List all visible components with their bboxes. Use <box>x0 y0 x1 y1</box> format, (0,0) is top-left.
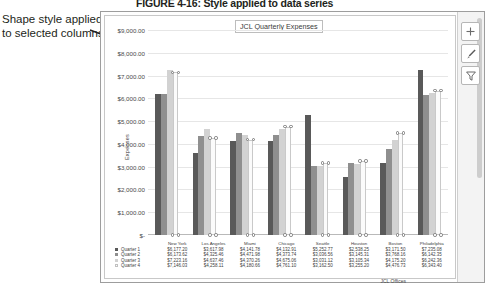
x-axis-category-label: Seattle <box>305 240 341 247</box>
chart-area[interactable]: JCL Quarterly Expenses Expenses $9,000.0… <box>104 15 456 279</box>
selection-handle[interactable] <box>358 233 361 236</box>
legend-color-swatch <box>115 253 118 256</box>
selection-handle[interactable] <box>246 233 249 236</box>
selection-handle[interactable] <box>402 131 405 134</box>
selection-handle[interactable] <box>214 233 217 236</box>
selection-handle[interactable] <box>433 233 436 236</box>
bar-4[interactable] <box>173 72 179 235</box>
x-axis-title: JCL Offices <box>105 278 450 284</box>
chart-styles-button[interactable] <box>461 44 480 63</box>
selection-handle[interactable] <box>321 233 324 236</box>
data-table: New YorkLos AngelesMiamiChicagoSeattleHo… <box>115 240 450 269</box>
bar-4[interactable] <box>435 91 441 235</box>
y-axis-tick-label: $6,000.00 <box>117 95 145 102</box>
bar-4[interactable] <box>360 161 366 235</box>
y-axis-tick-label: $- <box>139 232 145 239</box>
bar-4[interactable] <box>210 138 216 235</box>
annotation-line-2: to selected columns <box>2 27 110 41</box>
selection-handle[interactable] <box>321 161 324 164</box>
bar-group[interactable] <box>373 30 411 235</box>
bar-4[interactable] <box>285 127 291 235</box>
funnel-icon <box>465 70 477 82</box>
bar-4[interactable] <box>248 140 254 235</box>
data-table-cell: $7,146.03 <box>159 263 195 269</box>
plus-icon <box>465 26 476 37</box>
vertical-scrollbar-thumb[interactable] <box>477 18 482 178</box>
data-table-cell: $3,255.20 <box>341 263 377 269</box>
data-table-cell: $4,180.66 <box>232 263 268 269</box>
selection-handle[interactable] <box>364 233 367 236</box>
chart-data-table: New YorkLos AngelesMiamiChicagoSeattleHo… <box>115 240 450 274</box>
bar-group[interactable] <box>186 30 224 235</box>
selection-handle[interactable] <box>327 161 330 164</box>
excel-chart-screenshot: JCL Quarterly Expenses Expenses $9,000.0… <box>100 11 485 283</box>
selection-handle[interactable] <box>289 125 292 128</box>
legend-color-swatch <box>115 259 118 262</box>
chart-elements-button[interactable] <box>461 22 480 41</box>
x-axis-category-label: Los Angeles <box>195 240 231 247</box>
selection-handle[interactable] <box>177 71 180 74</box>
plot-area: $9,000.00$8,000.00$7,000.00$6,000.00$5,0… <box>148 30 448 235</box>
selection-handle[interactable] <box>327 233 330 236</box>
x-axis-category-label: Houston <box>341 240 377 247</box>
selection-handle[interactable] <box>396 233 399 236</box>
selection-handle[interactable] <box>208 136 211 139</box>
bar-group[interactable] <box>261 30 299 235</box>
annotation-callout: Shape style applied to selected columns <box>2 13 110 40</box>
annotation-line-1: Shape style applied <box>2 13 110 27</box>
y-axis-tick-label: $5,000.00 <box>117 118 145 125</box>
bar-4[interactable] <box>398 133 404 235</box>
y-axis-tick-label: $2,000.00 <box>117 186 145 193</box>
chart-filters-button[interactable] <box>461 66 480 85</box>
x-axis-category-label: Philadelphia <box>414 240 450 247</box>
selection-handle[interactable] <box>358 159 361 162</box>
figure-caption-text: Style applied to data series <box>203 0 333 9</box>
bar-group[interactable] <box>411 30 449 235</box>
bar-group[interactable] <box>148 30 186 235</box>
x-axis-category-label: Boston <box>377 240 413 247</box>
bar-group[interactable] <box>298 30 336 235</box>
y-axis-tick-label: $3,000.00 <box>117 163 145 170</box>
chart-side-gutter <box>457 12 484 282</box>
y-axis-tick-label: $4,000.00 <box>117 140 145 147</box>
selection-handle[interactable] <box>283 233 286 236</box>
y-axis-tick-label: $7,000.00 <box>117 72 145 79</box>
selection-handle[interactable] <box>439 89 442 92</box>
data-table-row: Quarter 4$7,146.03$4,258.11$4,180.66$4,7… <box>115 263 450 269</box>
legend-entry[interactable]: Quarter 4 <box>115 263 159 269</box>
y-axis-tick-label: $9,000.00 <box>117 27 145 34</box>
data-table-cell: $4,761.10 <box>268 263 304 269</box>
y-axis-tick-label: $1,000.00 <box>117 209 145 216</box>
data-table-cell: $6,343.40 <box>414 263 450 269</box>
selection-handle[interactable] <box>289 233 292 236</box>
selection-handle[interactable] <box>171 233 174 236</box>
selection-handle[interactable] <box>177 233 180 236</box>
legend-color-swatch <box>115 264 118 267</box>
selection-handle[interactable] <box>364 159 367 162</box>
bar-group[interactable] <box>336 30 374 235</box>
bar-4[interactable] <box>323 163 329 235</box>
paintbrush-icon <box>465 48 477 60</box>
figure-caption: FIGURE 4-16: Style applied to data serie… <box>136 0 436 10</box>
bar-group[interactable] <box>223 30 261 235</box>
selection-handle[interactable] <box>283 125 286 128</box>
selection-handle[interactable] <box>433 89 436 92</box>
legend-color-swatch <box>115 248 118 251</box>
selection-handle[interactable] <box>439 233 442 236</box>
y-axis-tick-label: $8,000.00 <box>117 49 145 56</box>
data-table-corner <box>115 240 159 247</box>
x-axis-category-label: New York <box>159 240 195 247</box>
data-table-header-row: New YorkLos AngelesMiamiChicagoSeattleHo… <box>115 240 450 247</box>
x-axis-category-label: Miami <box>232 240 268 247</box>
selection-handle[interactable] <box>402 233 405 236</box>
x-axis-category-label: Chicago <box>268 240 304 247</box>
selection-handle[interactable] <box>396 131 399 134</box>
selection-handle[interactable] <box>214 136 217 139</box>
data-table-cell: $4,476.73 <box>377 263 413 269</box>
data-table-cell: $3,162.50 <box>305 263 341 269</box>
data-table-cell: $4,258.11 <box>195 263 231 269</box>
selection-handle[interactable] <box>208 233 211 236</box>
figure-caption-number: FIGURE 4-16: <box>136 0 201 9</box>
selection-handle[interactable] <box>252 233 255 236</box>
